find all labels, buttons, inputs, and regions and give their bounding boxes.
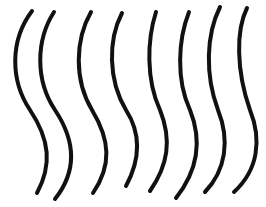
wavy-line-4 [112,13,137,186]
wavy-lines-figure [0,0,266,207]
wavy-line-8 [234,8,257,192]
wavy-line-5 [149,12,167,191]
wavy-line-3 [79,12,107,193]
wavy-line-7 [205,7,225,192]
wavy-line-6 [176,12,197,198]
